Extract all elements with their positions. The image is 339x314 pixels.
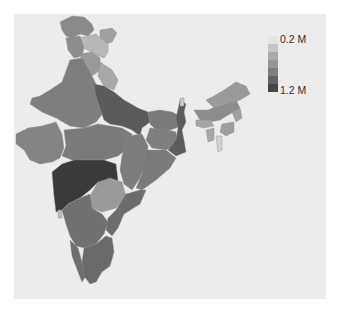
region-sikkim[interactable]	[180, 98, 184, 106]
region-madhya-pradesh[interactable]	[62, 124, 132, 160]
legend-step	[268, 84, 278, 92]
region-manipur[interactable]	[220, 122, 234, 136]
region-goa[interactable]	[58, 210, 62, 218]
legend-color-bar	[268, 36, 278, 92]
region-mizoram[interactable]	[216, 136, 222, 152]
legend-step	[268, 68, 278, 76]
legend-step	[268, 44, 278, 52]
region-arunachal-pradesh[interactable]	[206, 82, 250, 108]
legend-max-label: 1.2 M	[280, 84, 306, 96]
legend-step	[268, 52, 278, 60]
india-choropleth-map	[0, 0, 339, 314]
legend-step	[268, 60, 278, 68]
legend-step	[268, 36, 278, 44]
legend-step	[268, 76, 278, 84]
region-jammu-kashmir[interactable]	[60, 16, 94, 38]
region-gujarat[interactable]	[16, 122, 64, 164]
legend-min-label: 0.2 M	[280, 33, 306, 45]
region-tripura[interactable]	[206, 128, 214, 142]
